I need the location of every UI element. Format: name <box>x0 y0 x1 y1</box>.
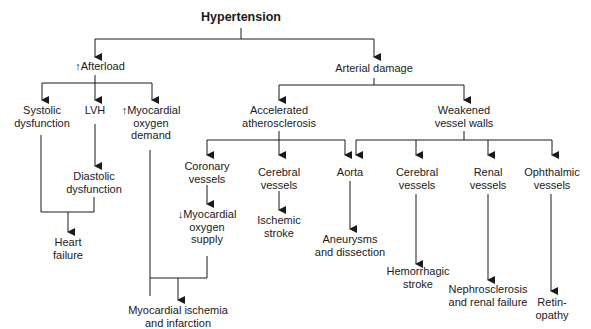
node-aneurysms-and-dissection: Aneurysms and dissection <box>315 233 385 258</box>
hypertension-flowchart: Hypertension ↑Afterload Arterial damage … <box>0 0 591 329</box>
node-ischemic-stroke: Ischemic stroke <box>257 214 300 239</box>
node-myocardial-ischemia-and-infarction: Myocardial ischemia and infarction <box>128 304 228 329</box>
connector-lines <box>0 0 591 329</box>
node-heart-failure: Heart failure <box>53 236 83 261</box>
node-retinopathy: Retin- opathy <box>535 296 568 321</box>
node-cerebral-vessels-weakened: Cerebral vessels <box>396 166 438 191</box>
node-ophthalmic-vessels: Ophthalmic vessels <box>524 166 580 191</box>
node-accelerated-atherosclerosis: Accelerated atherosclerosis <box>242 104 316 129</box>
node-coronary-vessels: Coronary vessels <box>184 160 229 185</box>
node-lvh: LVH <box>85 104 106 117</box>
node-hemorrhagic-stroke: Hemorrhagic stroke <box>387 265 450 290</box>
node-increased-myocardial-oxygen-demand: ↑Myocardial oxygen demand <box>122 104 181 142</box>
node-arterial-damage: Arterial damage <box>335 62 413 75</box>
node-cerebral-vessels-atherosclerosis: Cerebral vessels <box>258 166 300 191</box>
node-hypertension: Hypertension <box>201 11 281 24</box>
node-decreased-myocardial-oxygen-supply: ↓Myocardial oxygen supply <box>178 208 237 246</box>
node-nephrosclerosis-and-renal-failure: Nephrosclerosis and renal failure <box>449 283 528 308</box>
node-systolic-dysfunction: Systolic dysfunction <box>14 104 70 129</box>
node-aorta: Aorta <box>337 166 363 179</box>
node-weakened-vessel-walls: Weakened vessel walls <box>435 104 494 129</box>
node-diastolic-dysfunction: Diastolic dysfunction <box>66 170 122 195</box>
node-renal-vessels: Renal vessels <box>470 166 507 191</box>
node-increased-afterload: ↑Afterload <box>75 60 125 73</box>
